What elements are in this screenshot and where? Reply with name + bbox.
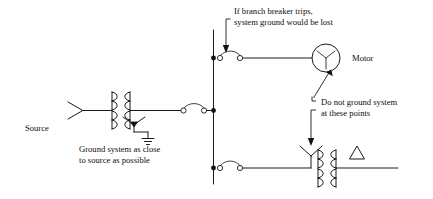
top-breaker-terminal-right (237, 55, 242, 60)
source-breaker-terminal-right (201, 108, 206, 113)
ground-note-line-1: Ground system as close (79, 144, 161, 154)
source-breaker-switch (181, 104, 207, 114)
bottom-breaker-terminal-left (217, 165, 222, 170)
wye-delta-transformer (318, 150, 336, 187)
load-transformer-secondary-coil (331, 150, 336, 187)
earth-ground-symbol (134, 132, 154, 145)
grounding-diagram: Source (0, 0, 433, 199)
bus-node-bottom (211, 166, 216, 171)
source-label: Source (25, 123, 49, 133)
delta-winding-symbol (350, 146, 365, 159)
load-transformer-note-arrow (308, 110, 316, 146)
diagram-canvas: Source (0, 0, 433, 199)
top-breaker-arc (221, 51, 241, 56)
do-not-ground-line-1: Do not ground system (321, 97, 397, 107)
transformer-primary-coil (112, 92, 117, 129)
do-not-ground-line-2: at these points (321, 108, 371, 118)
transformer-secondary-coil (125, 92, 130, 129)
source-wye-symbol (68, 102, 96, 119)
branch-breaker-top-switch (217, 51, 242, 61)
source-breaker-arc (184, 104, 204, 109)
bus-node-top (211, 56, 216, 61)
breaker-note-line-2: system ground would be lost (234, 17, 333, 27)
breaker-note-arrow (223, 19, 231, 53)
motor-label: Motor (352, 53, 374, 63)
wye-neutral-ground-symbol (123, 117, 145, 132)
load-transformer-wye-symbol (300, 146, 322, 168)
two-winding-transformer (112, 92, 130, 129)
motor-wye-circle-symbol (312, 44, 340, 72)
bottom-breaker-terminal-right (237, 165, 242, 170)
ground-note-line-2: to source as possible (79, 155, 150, 165)
load-transformer-primary-coil (318, 150, 323, 187)
top-breaker-terminal-left (217, 55, 222, 60)
breaker-note-line-1: If branch breaker trips, (234, 6, 313, 16)
bottom-breaker-arc (221, 161, 241, 166)
branch-breaker-bottom-switch (217, 161, 242, 171)
source-breaker-terminal-left (181, 108, 186, 113)
